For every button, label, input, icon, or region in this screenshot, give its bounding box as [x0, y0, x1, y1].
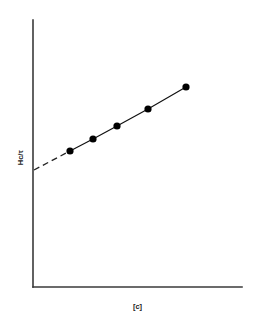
plot-background: [0, 0, 257, 319]
chart-figure: Hc/τ [c]: [0, 0, 257, 319]
data-point: [113, 122, 120, 129]
plot-canvas: [0, 0, 257, 319]
data-point: [144, 105, 151, 112]
data-point: [89, 135, 96, 142]
data-point: [66, 147, 73, 154]
data-point: [182, 83, 189, 90]
